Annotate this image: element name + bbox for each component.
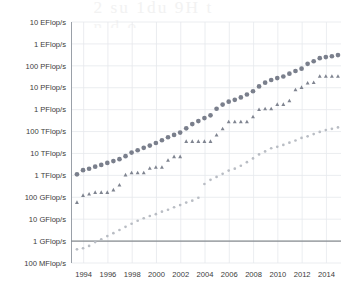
data-point bbox=[300, 137, 303, 140]
data-point bbox=[167, 208, 170, 211]
data-point bbox=[306, 81, 310, 85]
data-point bbox=[124, 173, 128, 177]
data-point bbox=[184, 139, 188, 143]
data-point bbox=[111, 188, 115, 192]
y-tick-label: 100 MFlop/s bbox=[24, 259, 66, 268]
data-point bbox=[311, 59, 316, 64]
performance-development-chart: 2 su 1du 9H t n d o 10 EFlop/s1 EFlop/s1… bbox=[0, 0, 358, 296]
data-point bbox=[190, 139, 194, 143]
data-point bbox=[196, 139, 200, 143]
data-point bbox=[166, 158, 170, 162]
data-point bbox=[317, 56, 322, 61]
data-point bbox=[331, 127, 334, 130]
y-tick-label: 100 GFlop/s bbox=[25, 193, 67, 202]
data-point bbox=[276, 145, 279, 148]
chart-svg: 10 EFlop/s1 EFlop/s100 PFlop/s10 PFlop/s… bbox=[0, 0, 358, 296]
y-tick-label: 1 PFlop/s bbox=[34, 105, 66, 114]
data-point bbox=[106, 235, 109, 238]
data-point bbox=[154, 165, 158, 169]
data-point bbox=[93, 190, 97, 194]
data-point bbox=[275, 76, 280, 81]
data-point bbox=[281, 74, 286, 79]
data-point bbox=[318, 74, 322, 78]
x-tick-label: 1994 bbox=[75, 270, 92, 279]
data-point bbox=[306, 135, 309, 138]
data-point bbox=[215, 176, 218, 179]
data-point bbox=[81, 193, 85, 197]
data-point bbox=[99, 163, 104, 168]
data-point bbox=[312, 133, 315, 136]
x-tick-label: 2006 bbox=[221, 270, 238, 279]
axes-group bbox=[72, 22, 342, 263]
data-point bbox=[142, 217, 145, 220]
x-tick-label: 2010 bbox=[269, 270, 286, 279]
data-point bbox=[330, 74, 334, 78]
data-point bbox=[293, 69, 298, 74]
data-point bbox=[232, 97, 237, 102]
series-500-markers bbox=[76, 126, 340, 251]
data-point bbox=[123, 154, 128, 159]
data-point bbox=[75, 172, 80, 177]
data-point bbox=[287, 71, 292, 76]
data-point bbox=[93, 164, 98, 169]
data-point bbox=[288, 141, 291, 144]
data-point bbox=[105, 190, 109, 194]
data-point bbox=[136, 171, 140, 175]
data-point bbox=[184, 126, 189, 131]
data-point bbox=[251, 115, 255, 119]
y-tick-label: 10 TFlop/s bbox=[30, 149, 66, 158]
data-point bbox=[300, 85, 304, 89]
y-tick-label: 10 EFlop/s bbox=[30, 18, 67, 27]
data-point bbox=[179, 204, 182, 207]
data-point bbox=[294, 88, 298, 92]
y-tick-label: 10 PFlop/s bbox=[30, 83, 67, 92]
data-point bbox=[269, 107, 273, 111]
data-point bbox=[135, 148, 140, 153]
data-point bbox=[130, 222, 133, 225]
data-point bbox=[154, 141, 159, 146]
data-point bbox=[129, 150, 134, 155]
series-1-markers bbox=[75, 74, 340, 204]
data-point bbox=[173, 206, 176, 209]
x-tick-label: 2014 bbox=[318, 270, 335, 279]
data-point bbox=[215, 133, 219, 137]
y-tick-label: 10 GFlop/s bbox=[29, 215, 66, 224]
data-point bbox=[305, 61, 310, 66]
data-point bbox=[226, 99, 231, 104]
data-point bbox=[330, 54, 335, 59]
data-point bbox=[100, 238, 103, 241]
data-point bbox=[166, 135, 171, 140]
x-tick-label: 2000 bbox=[148, 270, 165, 279]
data-point bbox=[324, 129, 327, 132]
x-tick-label: 2008 bbox=[245, 270, 262, 279]
data-point bbox=[172, 155, 176, 159]
data-point bbox=[81, 168, 86, 173]
data-point bbox=[87, 166, 92, 171]
data-point bbox=[299, 66, 304, 71]
data-point bbox=[251, 89, 256, 94]
data-point bbox=[245, 120, 249, 124]
data-point bbox=[336, 53, 341, 58]
series-sum-markers bbox=[75, 53, 341, 177]
data-point bbox=[233, 167, 236, 170]
data-point bbox=[208, 113, 213, 118]
data-point bbox=[336, 74, 340, 78]
data-point bbox=[239, 164, 242, 167]
data-point bbox=[209, 139, 213, 143]
data-point bbox=[117, 157, 122, 162]
data-point bbox=[246, 161, 249, 164]
data-point bbox=[76, 248, 79, 251]
data-point bbox=[239, 120, 243, 124]
data-point bbox=[118, 229, 121, 232]
data-point bbox=[258, 153, 261, 156]
data-point bbox=[148, 166, 152, 170]
data-point bbox=[238, 95, 243, 100]
data-point bbox=[82, 247, 85, 250]
data-point bbox=[263, 80, 268, 85]
data-point bbox=[160, 165, 164, 169]
data-point bbox=[124, 225, 127, 228]
data-point bbox=[281, 102, 285, 106]
data-point bbox=[257, 84, 262, 89]
data-point bbox=[282, 144, 285, 147]
data-point bbox=[220, 102, 225, 107]
